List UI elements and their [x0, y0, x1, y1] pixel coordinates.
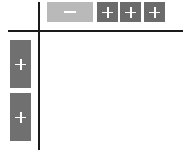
vertical-divider [38, 2, 40, 150]
plus-icon [125, 7, 136, 18]
plus-icon [15, 59, 26, 70]
add-column-button-2[interactable] [120, 2, 141, 22]
remove-button[interactable] [47, 2, 93, 22]
horizontal-divider [8, 30, 183, 32]
plus-icon [102, 7, 113, 18]
plus-icon [15, 112, 26, 123]
add-row-button-1[interactable] [10, 40, 31, 88]
add-column-button-1[interactable] [97, 2, 118, 22]
add-row-button-2[interactable] [10, 93, 31, 141]
plus-icon [149, 7, 160, 18]
minus-icon [64, 11, 76, 13]
add-column-button-3[interactable] [144, 2, 165, 22]
